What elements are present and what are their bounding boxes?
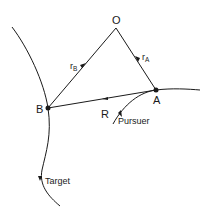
point-b-label: B <box>36 103 43 115</box>
vector-r-a-line <box>116 28 156 90</box>
vector-relative-label: R <box>101 108 109 120</box>
point-b-dot <box>46 106 51 111</box>
vector-r-a-label: rA <box>142 52 150 63</box>
pursuer-curve-label: Pursuer <box>118 116 150 126</box>
target-curve-label: Target <box>45 176 71 186</box>
vector-r-b-label: rB <box>70 61 77 72</box>
origin-label: O <box>112 14 121 26</box>
pursuit-geometry-diagram: O A B rB rA R Target Pursuer <box>0 0 209 221</box>
point-a-dot <box>154 88 159 93</box>
point-a-label: A <box>153 94 161 106</box>
